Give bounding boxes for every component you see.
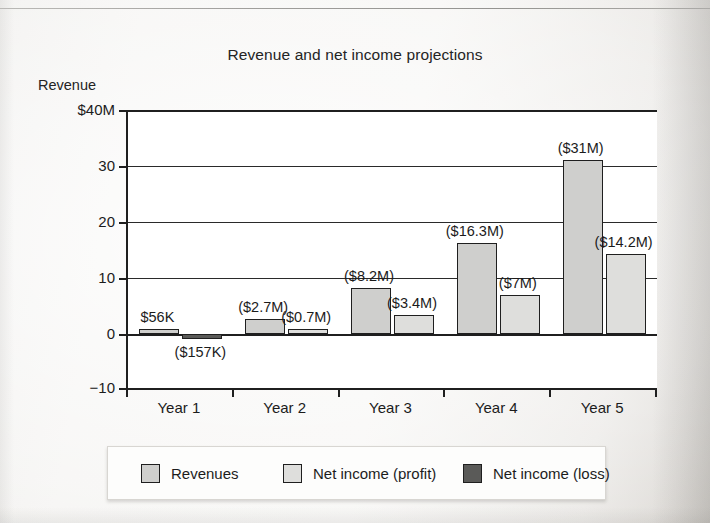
chart-title: Revenue and net income projections	[0, 46, 710, 64]
bar-year-2-profit	[288, 329, 328, 334]
bar-value-label-year-5-profit: ($14.2M)	[579, 234, 669, 250]
legend-swatch-profit-icon	[283, 464, 302, 483]
y-tick-label-20: 20	[98, 213, 115, 230]
bar-value-label-year-1-revenue: $56K	[112, 309, 202, 325]
x-tick-mark-3	[443, 390, 445, 397]
bar-value-label-year-3-profit: ($3.4M)	[367, 295, 457, 311]
y-tick-label-40: $40M	[77, 101, 115, 118]
bar-value-label-year-4-revenue: ($16.3M)	[430, 223, 520, 239]
y-tick-label-30: 30	[98, 157, 115, 174]
y-axis-caption: Revenue	[38, 77, 96, 93]
y-tick-mark--10	[119, 388, 126, 390]
bar-value-label-year-1-loss: ($157K)	[155, 344, 245, 360]
gridline--10	[128, 388, 657, 390]
bar-year-4-profit	[500, 295, 540, 334]
gridline-40	[128, 110, 657, 112]
x-axis-label-year-4: Year 4	[443, 399, 549, 416]
x-tick-mark-end	[655, 390, 657, 397]
bar-year-1-revenue	[139, 329, 179, 334]
legend-label-profit: Net income (profit)	[313, 465, 436, 482]
legend-swatch-revenue-icon	[141, 464, 160, 483]
legend-label-loss: Net income (loss)	[493, 465, 610, 482]
bar-value-label-year-2-profit: ($0.7M)	[261, 309, 351, 325]
legend-item-revenue[interactable]: Revenues	[141, 464, 239, 483]
y-tick-mark-0	[119, 334, 126, 336]
x-axis-label-year-2: Year 2	[232, 399, 338, 416]
legend-item-profit[interactable]: Net income (profit)	[283, 464, 436, 483]
legend-swatch-loss-icon	[463, 464, 482, 483]
legend-label-revenue: Revenues	[171, 465, 239, 482]
chart-legend: RevenuesNet income (profit)Net income (l…	[107, 446, 606, 500]
y-tick-label-10: 10	[98, 269, 115, 286]
page-top-rule	[0, 8, 710, 9]
bar-value-label-year-4-profit: ($7M)	[473, 275, 563, 291]
x-axis-label-year-3: Year 3	[338, 399, 444, 416]
x-axis-label-year-5: Year 5	[549, 399, 655, 416]
x-tick-mark-2	[338, 390, 340, 397]
bar-year-5-profit	[606, 254, 646, 334]
bar-value-label-year-5-revenue: ($31M)	[536, 140, 626, 156]
x-axis-label-year-1: Year 1	[126, 399, 232, 416]
bar-year-1-loss	[182, 334, 222, 339]
legend-item-loss[interactable]: Net income (loss)	[463, 464, 610, 483]
bar-year-3-profit	[394, 315, 434, 334]
y-tick-mark-10	[119, 278, 126, 280]
x-tick-mark-0	[126, 390, 128, 397]
y-tick-mark-30	[119, 166, 126, 168]
x-tick-mark-4	[549, 390, 551, 397]
y-tick-label--10: −10	[90, 379, 115, 396]
bar-value-label-year-3-revenue: ($8.2M)	[324, 268, 414, 284]
y-tick-label-0: 0	[107, 325, 115, 342]
x-tick-mark-1	[232, 390, 234, 397]
y-tick-mark-40	[119, 110, 126, 112]
y-tick-mark-20	[119, 222, 126, 224]
